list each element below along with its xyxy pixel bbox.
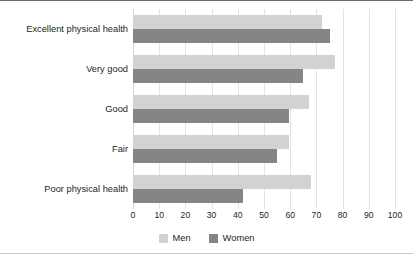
bar-men-4 bbox=[133, 175, 311, 189]
value-tick-label: 100 bbox=[388, 210, 402, 220]
gridline-80 bbox=[343, 9, 344, 209]
legend-item-men[interactable]: Men bbox=[159, 233, 191, 243]
legend-label: Men bbox=[173, 233, 191, 243]
bar-women-2 bbox=[133, 109, 289, 123]
value-tick-label: 10 bbox=[154, 210, 164, 220]
bar-women-0 bbox=[133, 29, 330, 43]
legend-swatch-icon bbox=[159, 234, 168, 243]
chart-legend: MenWomen bbox=[0, 233, 413, 243]
legend-item-women[interactable]: Women bbox=[209, 233, 255, 243]
bar-women-1 bbox=[133, 69, 303, 83]
gridline-100 bbox=[395, 9, 396, 209]
bar-chart: Excellent physical healthVery goodGoodFa… bbox=[0, 0, 413, 254]
category-label: Fair bbox=[0, 144, 128, 155]
category-label: Excellent physical health bbox=[0, 24, 128, 35]
value-tick-label: 40 bbox=[233, 210, 243, 220]
value-tick-label: 60 bbox=[285, 210, 295, 220]
value-tick-label: 90 bbox=[364, 210, 374, 220]
value-tick-label: 70 bbox=[312, 210, 322, 220]
category-label: Good bbox=[0, 104, 128, 115]
bar-women-3 bbox=[133, 149, 277, 163]
plot-area bbox=[133, 9, 395, 209]
category-label: Very good bbox=[0, 64, 128, 75]
value-tick-label: 50 bbox=[259, 210, 269, 220]
gridline-90 bbox=[369, 9, 370, 209]
legend-swatch-icon bbox=[209, 234, 218, 243]
bar-men-2 bbox=[133, 95, 309, 109]
category-label: Poor physical health bbox=[0, 184, 128, 195]
bar-men-1 bbox=[133, 55, 335, 69]
value-tick-label: 80 bbox=[338, 210, 348, 220]
bar-men-3 bbox=[133, 135, 289, 149]
value-tick-label: 30 bbox=[207, 210, 217, 220]
legend-label: Women bbox=[223, 233, 255, 243]
bar-men-0 bbox=[133, 15, 322, 29]
value-axis: 0102030405060708090100 bbox=[133, 210, 395, 224]
value-tick-label: 20 bbox=[181, 210, 191, 220]
bar-women-4 bbox=[133, 189, 243, 203]
value-tick-label: 0 bbox=[131, 210, 136, 220]
category-axis: Excellent physical healthVery goodGoodFa… bbox=[0, 9, 128, 209]
